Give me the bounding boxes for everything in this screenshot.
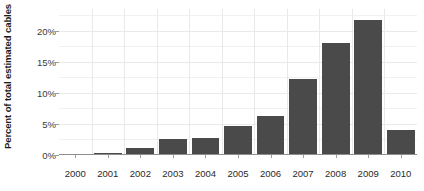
bar — [322, 43, 350, 155]
y-axis-tick-label: 15% — [16, 56, 56, 67]
x-axis-tick-label: 2008 — [325, 168, 346, 179]
plot-area — [59, 9, 417, 155]
x-axis-tick-label: 2004 — [195, 168, 216, 179]
y-axis-tick-mark — [55, 155, 59, 156]
bar — [224, 126, 252, 155]
x-axis-tick-label: 2001 — [97, 168, 118, 179]
bar — [192, 138, 220, 155]
x-axis-tick-label: 2005 — [227, 168, 248, 179]
y-axis-title: Percent of total estimated cables — [0, 0, 14, 172]
x-axis-tick-labels: 2000200120022003200420052006200720082009… — [59, 158, 417, 178]
bar — [354, 20, 382, 155]
y-axis-tick-label: 20% — [16, 25, 56, 36]
x-axis-tick-label: 2007 — [293, 168, 314, 179]
y-axis-tick-label: 10% — [16, 87, 56, 98]
x-axis-tick-label: 2003 — [162, 168, 183, 179]
bar — [159, 139, 187, 155]
y-axis-tick-labels: 0%5%10%15%20% — [16, 0, 56, 191]
y-axis-tick-mark — [55, 31, 59, 32]
bar-chart: Percent of total estimated cables 0%5%10… — [0, 0, 424, 191]
bar — [387, 130, 415, 155]
bars-layer — [59, 9, 417, 155]
x-axis-tick-label: 2000 — [65, 168, 86, 179]
x-axis-tick-label: 2002 — [130, 168, 151, 179]
bar — [257, 116, 285, 155]
x-axis-tick-label: 2010 — [390, 168, 411, 179]
y-axis-tick-label: 0% — [16, 150, 56, 161]
y-axis-tick-mark — [55, 124, 59, 125]
bar — [289, 79, 317, 155]
x-axis-tick-label: 2009 — [358, 168, 379, 179]
y-axis-tick-label: 5% — [16, 118, 56, 129]
y-axis-tick-mark — [55, 62, 59, 63]
y-axis-tick-mark — [55, 93, 59, 94]
x-axis-tick-label: 2006 — [260, 168, 281, 179]
